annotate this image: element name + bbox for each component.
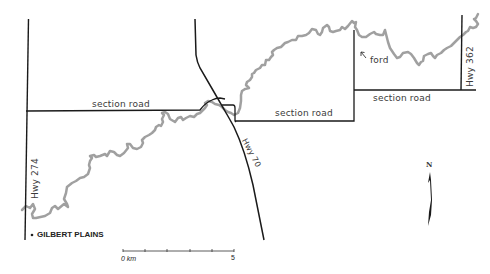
section-road-west-label: section road: [92, 99, 150, 109]
scale-end-label: 5: [231, 254, 235, 261]
map: section road section road section road H…: [0, 0, 490, 274]
north-arrow-icon: [428, 172, 432, 226]
section-road-east-label: section road: [373, 93, 431, 103]
hwy-274-label: Hwy 274: [30, 158, 40, 199]
river: [22, 14, 478, 218]
hwy-362: [461, 15, 462, 90]
hwy-362-label: Hwy 362: [465, 46, 475, 87]
scale-start-label: 0 km: [121, 255, 136, 262]
north-label: N: [426, 160, 432, 169]
ford-arrow-icon: [361, 52, 366, 58]
town-dot-icon: [31, 234, 34, 237]
section-road-center-label: section road: [275, 108, 333, 118]
scale-bar: [123, 249, 234, 252]
hwy-70: [195, 19, 264, 240]
ford-label: ford: [370, 55, 389, 65]
town-label: GILBERT PLAINS: [37, 230, 104, 239]
